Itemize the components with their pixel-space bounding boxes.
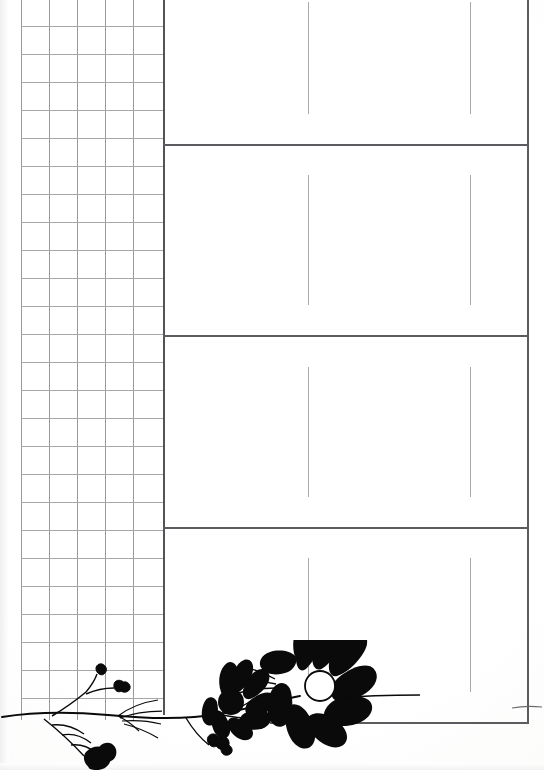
grid-line-horizontal xyxy=(21,698,163,699)
grid-line-horizontal xyxy=(21,54,163,55)
answer-box-separator xyxy=(163,144,529,146)
answer-box-label: Box 1 xyxy=(163,0,164,1)
grid-line-horizontal xyxy=(21,278,163,279)
grid-line-horizontal xyxy=(21,418,163,419)
answer-box-divider xyxy=(308,558,309,692)
grid-line-horizontal xyxy=(21,642,163,643)
grid-line-horizontal xyxy=(21,82,163,83)
answer-box[interactable]: Box 4 xyxy=(163,527,527,722)
answer-box-separator xyxy=(163,335,529,337)
grid-line-horizontal xyxy=(21,250,163,251)
grid-line-vertical xyxy=(77,0,78,720)
scan-edge-shadow-bottom xyxy=(0,763,544,770)
answer-box-divider xyxy=(470,558,471,692)
grid-line-horizontal xyxy=(21,194,163,195)
grid-line-horizontal xyxy=(21,586,163,587)
answer-box[interactable]: Box 2 xyxy=(163,144,527,335)
answer-box-divider xyxy=(470,367,471,497)
answer-box-divider xyxy=(308,175,309,305)
grid-line-horizontal xyxy=(21,222,163,223)
grid-line-horizontal xyxy=(21,166,163,167)
grid-line-horizontal xyxy=(21,474,163,475)
answer-box-divider xyxy=(308,2,309,114)
answer-panel-bottom-rule xyxy=(270,722,529,724)
answer-box-divider xyxy=(470,2,471,114)
grid-line-horizontal xyxy=(21,558,163,559)
grid-line-horizontal xyxy=(21,334,163,335)
grid-line-vertical xyxy=(49,0,50,720)
grid-line-horizontal xyxy=(21,110,163,111)
small-bud-left-icon xyxy=(52,664,130,716)
grid-line-horizontal xyxy=(21,530,163,531)
scan-edge-shadow-left xyxy=(0,0,9,770)
answer-box[interactable]: Box 1 xyxy=(163,0,527,144)
answer-box-separator xyxy=(163,527,529,529)
grid-line-horizontal xyxy=(21,614,163,615)
grid-line-horizontal xyxy=(21,446,163,447)
grid-line-horizontal xyxy=(21,26,163,27)
grid-line-horizontal xyxy=(21,138,163,139)
grid-line-vertical xyxy=(133,0,134,720)
grid-line-horizontal xyxy=(21,670,163,671)
grid-line-horizontal xyxy=(21,306,163,307)
answer-box-divider xyxy=(470,175,471,305)
small-bud-right-icon xyxy=(186,718,232,755)
worksheet-page: Blank ruled worksheet page with graph gr… xyxy=(0,0,544,770)
answer-panel-right-border xyxy=(527,0,529,722)
grid-line-vertical xyxy=(21,0,22,720)
grid-line-horizontal xyxy=(21,502,163,503)
answer-box[interactable]: Box 3 xyxy=(163,335,527,527)
grid-line-horizontal xyxy=(21,362,163,363)
grid-line-horizontal xyxy=(21,390,163,391)
answer-box-divider xyxy=(308,367,309,497)
leaf-cluster-icon xyxy=(44,719,96,756)
leaf-tuft-icon xyxy=(118,700,162,738)
grid-line-vertical xyxy=(105,0,106,720)
